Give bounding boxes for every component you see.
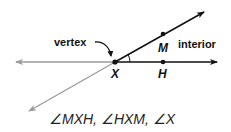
point-h-dot [161, 60, 166, 65]
point-h-label: H [158, 67, 167, 81]
angle-names-caption: ∠MXH, ∠HXM, ∠X [49, 111, 176, 127]
vertex-pointer-arrow [95, 42, 111, 56]
ray-extension-lower-left [29, 62, 115, 111]
point-m-dot [161, 32, 166, 37]
point-m-label: M [158, 41, 169, 55]
point-x-dot [112, 59, 117, 64]
point-x-label: X [110, 67, 120, 81]
angle-diagram: vertex interior X M H ∠MXH, ∠HXM, ∠X [0, 0, 231, 132]
interior-label: interior [178, 38, 217, 50]
angle-arc [128, 55, 130, 63]
vertex-label: vertex [54, 36, 87, 48]
